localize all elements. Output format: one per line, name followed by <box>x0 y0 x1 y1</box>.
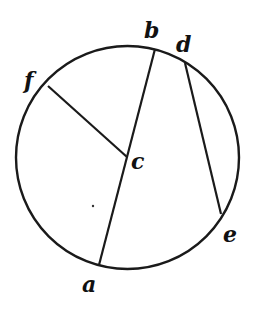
label-f: f <box>22 67 37 93</box>
label-b: b <box>144 17 159 43</box>
circle-diagram: a b c d e f <box>0 0 253 312</box>
chord-de <box>185 63 221 214</box>
label-a: a <box>82 271 96 297</box>
label-e: e <box>223 221 237 247</box>
label-c: c <box>131 148 145 174</box>
label-d: d <box>176 31 191 57</box>
radius-fc <box>48 86 127 157</box>
stray-dot <box>92 205 94 207</box>
